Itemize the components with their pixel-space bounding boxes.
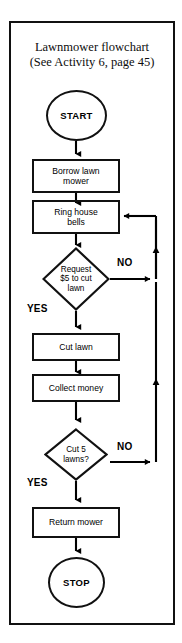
branch-label-request-yes: YES [27,303,48,314]
node-borrow-label-line-1: Borrow lawn [52,166,99,177]
node-return-mower[interactable]: Return mower [32,507,120,538]
node-cut-lawn-label: Cut lawn [59,342,92,353]
node-cut5-label: Cut 5 lawns? [44,428,108,481]
node-cut-5-lawns[interactable]: Cut 5 lawns? [44,428,108,481]
node-cut5-label-line-1: Cut 5 [63,445,89,455]
node-start-label: START [60,110,92,121]
node-ring-house-bells[interactable]: Ring house bells [32,200,120,234]
node-return-mower-label: Return mower [49,517,103,528]
node-request-label-line-2: $5 to cut [60,274,91,284]
node-request-label: Request $5 to cut lawn [42,247,110,311]
node-cut-lawn[interactable]: Cut lawn [32,333,120,361]
node-ring-label-line-2: bells [67,217,85,228]
node-ring-label-line-1: Ring house [54,207,97,218]
node-borrow-label-line-2: mower [63,176,89,187]
node-request-label-line-1: Request [60,265,91,275]
node-borrow-lawn-mower[interactable]: Borrow lawn mower [32,159,120,193]
node-cut5-label-line-2: lawns? [63,455,89,465]
node-request-label-line-3: lawn [60,284,91,294]
branch-label-cut5-yes: YES [27,477,48,488]
node-start[interactable]: START [46,90,107,141]
node-collect-money[interactable]: Collect money [32,374,120,402]
branch-label-request-no: NO [117,257,132,268]
branch-label-cut5-no: NO [117,441,132,452]
node-collect-money-label: Collect money [49,383,103,394]
node-request-money[interactable]: Request $5 to cut lawn [42,247,110,311]
node-stop[interactable]: STOP [48,557,105,608]
flowchart-nodes: START Borrow lawn mower Ring house bells… [0,0,182,643]
node-stop-label: STOP [63,577,90,588]
